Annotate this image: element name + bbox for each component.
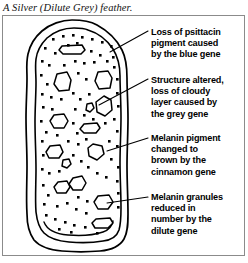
annotation-line: number by the — [151, 214, 247, 225]
annotation-line: Melanin granules — [151, 192, 247, 203]
annotation-grey-gene: Structure altered, loss of cloudy layer … — [151, 75, 247, 120]
annotation-blue-gene: Loss of psittacin pigment caused by the … — [151, 27, 247, 61]
annotation-line: loss of cloudy — [151, 86, 247, 97]
annotation-line: dilute gene — [151, 226, 247, 237]
annotation-line: reduced in — [151, 203, 247, 214]
feather-outer-outline — [26, 20, 128, 252]
annotation-line: brown by the — [151, 155, 247, 166]
annotation-line: the grey gene — [151, 109, 247, 120]
annotation-dilute-gene: Melanin granules reduced in number by th… — [151, 192, 247, 237]
annotation-line: layer caused by — [151, 97, 247, 108]
figure-panel: A Silver (Dilute Grey) feather. — [0, 0, 248, 263]
annotation-line: pigment caused — [151, 38, 247, 49]
annotation-line: Loss of psittacin — [151, 27, 247, 38]
annotation-line: cinnamon gene — [151, 167, 247, 178]
annotation-line: changed to — [151, 144, 247, 155]
annotation-cinnamon-gene: Melanin pigment changed to brown by the … — [151, 133, 247, 178]
annotation-line: Melanin pigment — [151, 133, 247, 144]
annotation-line: by the blue gene — [151, 49, 247, 60]
annotation-line: Structure altered, — [151, 75, 247, 86]
